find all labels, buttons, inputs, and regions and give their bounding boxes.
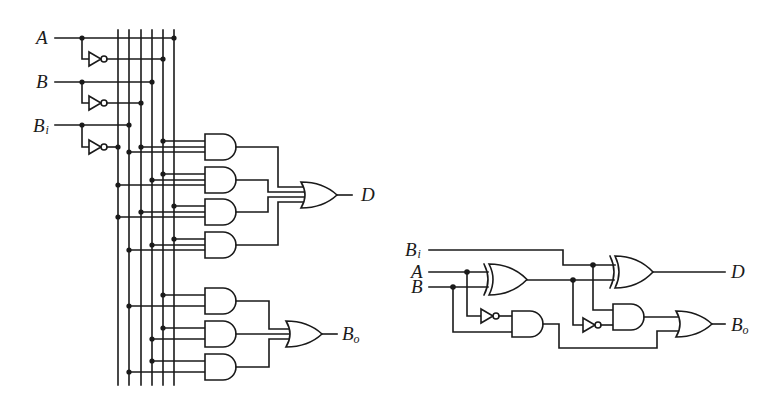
xor-gate-1 [484, 264, 527, 295]
inverter-b [89, 96, 107, 110]
and-gate-right-2 [613, 304, 644, 330]
output-label-d-right: D [730, 261, 745, 282]
input-a-wiring [55, 35, 177, 66]
input-bus [118, 30, 174, 385]
left-circuit-sop: A B Bi [33, 27, 375, 385]
inverter-a [89, 52, 107, 66]
output-label-bo: Bo [342, 323, 360, 346]
input-label-bi-right: Bi [405, 239, 421, 261]
or-gate-right [676, 311, 712, 337]
right-circuit-xor: Bi A B D [405, 239, 749, 348]
output-label-bo-right: Bo [731, 314, 749, 337]
xor-gate-2 [610, 256, 653, 288]
input-label-b: B [36, 71, 48, 92]
wire-a-branch [467, 272, 481, 316]
or-gate-d [301, 182, 352, 208]
output-label-d: D [360, 184, 375, 205]
inverter-bi [89, 140, 107, 154]
or-gate-bo [286, 321, 337, 347]
and-gate-right-1 [512, 311, 543, 337]
input-b-wiring [55, 79, 155, 110]
inverter-xor-right [583, 318, 601, 332]
and-gate-d3 [115, 197, 305, 225]
input-bi-wiring [55, 122, 132, 154]
input-label-bi: Bi [33, 115, 49, 137]
wire-and1-out [543, 324, 679, 348]
wire-bi [429, 250, 615, 265]
wire-xor1-branch [573, 280, 583, 325]
input-label-a: A [34, 27, 48, 48]
and-gate-d2 [115, 167, 305, 193]
input-label-b-right: B [411, 276, 423, 297]
full-subtractor-diagram: A B Bi [0, 0, 777, 399]
inverter-a-right [481, 309, 499, 323]
